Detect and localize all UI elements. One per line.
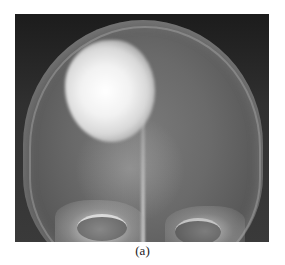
figure-caption: (a): [0, 243, 285, 259]
xray-image: [15, 14, 269, 242]
orbit-left: [77, 214, 127, 241]
orbit-right: [175, 218, 221, 242]
